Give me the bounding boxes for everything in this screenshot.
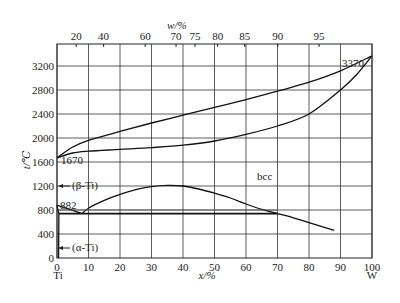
top-tick-label: 60 — [140, 30, 152, 42]
x-axis-label: x/% — [197, 269, 215, 281]
phase-diagram: 0102030405060708090100040080012001600200… — [0, 0, 400, 303]
top-axis-label: w/% — [167, 19, 187, 31]
ti-melting-point-label: 1670 — [61, 154, 84, 166]
x-tick-label: 30 — [146, 261, 158, 273]
beta-arrow-icon — [58, 184, 63, 188]
top-tick-label: 85 — [239, 30, 251, 42]
y-axis-label: t/℃ — [20, 150, 32, 169]
x-tick-label: 40 — [178, 261, 190, 273]
grid — [57, 44, 372, 258]
w-melting-point-label: 3370 — [342, 57, 365, 69]
y-tick-label: 400 — [38, 228, 55, 240]
bcc-label: bcc — [257, 170, 272, 182]
top-tick-label: 95 — [314, 30, 326, 42]
y-tick-label: 2800 — [32, 84, 55, 96]
y-tick-label: 2000 — [32, 132, 55, 144]
y-tick-label: 3200 — [32, 60, 55, 72]
beta-ti-label: (β-Ti) — [72, 179, 98, 192]
top-tick-label: 90 — [272, 30, 284, 42]
w-endpoint-label: W — [367, 269, 378, 281]
ti-endpoint-label: Ti — [53, 269, 62, 281]
x-tick-label: 10 — [83, 261, 95, 273]
y-tick-label: 800 — [38, 204, 55, 216]
x-tick-label: 90 — [335, 261, 347, 273]
x-tick-label: 70 — [272, 261, 284, 273]
top-tick-label: 20 — [71, 30, 83, 42]
top-tick-label: 70 — [171, 30, 183, 42]
x-tick-label: 60 — [241, 261, 253, 273]
top-tick-label: 75 — [189, 30, 201, 42]
arrows — [58, 184, 70, 250]
top-tick-label: 80 — [212, 30, 224, 42]
y-tick-label: 1200 — [32, 180, 55, 192]
alpha-ti-label: (α-Ti) — [72, 241, 98, 254]
y-tick-label: 2400 — [32, 108, 55, 120]
x-tick-label: 20 — [115, 261, 127, 273]
y-tick-label: 1600 — [32, 156, 55, 168]
top-tick-label: 40 — [98, 30, 110, 42]
x-tick-label: 80 — [304, 261, 316, 273]
y-tick-label: 0 — [49, 252, 55, 264]
annotations: 3370 1670 882 (β-Ti) (α-Ti) bcc w/% x/% … — [20, 19, 378, 281]
transus-label: 882 — [60, 199, 77, 211]
